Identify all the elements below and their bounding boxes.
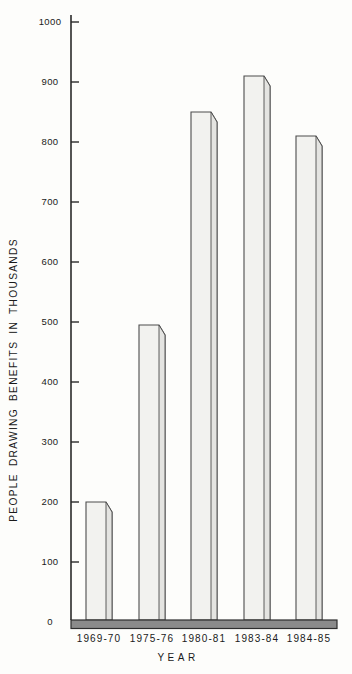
y-tick-label-400: 400 <box>41 376 58 387</box>
x-axis-baseline-band <box>71 620 337 629</box>
x-axis-title: YEAR <box>157 652 198 663</box>
people-drawing-benefits-bar-chart: 010020030040050060070080090010001969-701… <box>0 0 352 674</box>
bar-side-face-1975-76 <box>159 325 165 620</box>
y-tick-label-500: 500 <box>41 316 58 327</box>
y-tick-label-0: 0 <box>47 616 53 627</box>
x-tick-label-1969-70: 1969-70 <box>77 633 121 644</box>
bar-side-face-1983-84 <box>264 76 270 620</box>
y-tick-label-1000: 1000 <box>39 16 62 27</box>
y-tick-label-300: 300 <box>41 436 58 447</box>
y-tick-label-900: 900 <box>41 76 58 87</box>
y-axis-title: PEOPLE DRAWING BENEFITS IN THOUSANDS <box>8 238 19 522</box>
x-tick-label-1975-76: 1975-76 <box>130 633 174 644</box>
bar-side-face-1984-85 <box>316 136 322 620</box>
x-tick-label-1984-85: 1984-85 <box>287 633 331 644</box>
y-tick-label-800: 800 <box>41 136 58 147</box>
bar-side-face-1969-70 <box>106 502 112 620</box>
y-tick-label-200: 200 <box>41 496 58 507</box>
y-tick-label-100: 100 <box>41 556 58 567</box>
y-tick-label-600: 600 <box>41 256 58 267</box>
bar-side-face-1980-81 <box>211 112 217 620</box>
x-tick-label-1980-81: 1980-81 <box>182 633 226 644</box>
bar-chart-figure: 010020030040050060070080090010001969-701… <box>0 0 352 674</box>
x-tick-label-1983-84: 1983-84 <box>235 633 279 644</box>
y-tick-label-700: 700 <box>41 196 58 207</box>
